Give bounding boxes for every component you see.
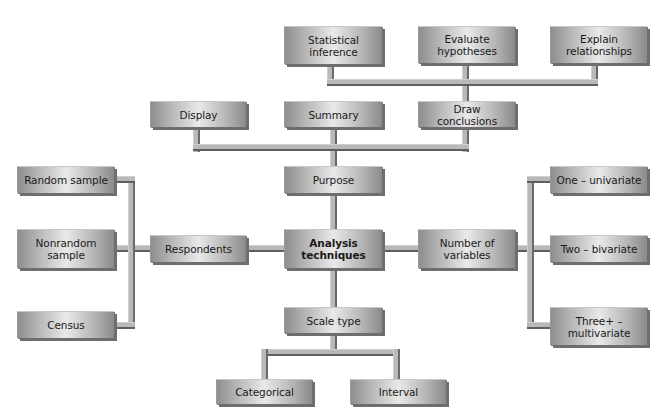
node-label: Categorical bbox=[235, 386, 294, 398]
connector bbox=[393, 349, 400, 380]
node-label: Nonrandom bbox=[36, 237, 97, 249]
node-bivariate: Two – bivariate bbox=[550, 235, 647, 262]
node-number-of-variables: Number of variables bbox=[418, 229, 515, 268]
connector bbox=[330, 192, 337, 230]
node-label: Draw conclusions bbox=[423, 103, 511, 127]
connector bbox=[527, 322, 551, 329]
node-statistical-inference: Statistical inference bbox=[284, 26, 382, 64]
node-interval: Interval bbox=[350, 379, 446, 404]
node-label: Scale type bbox=[306, 315, 360, 327]
node-label: relationships bbox=[566, 45, 632, 57]
analysis-techniques-diagram: Statistical inference Evaluate hypothese… bbox=[0, 0, 664, 409]
node-random-sample: Random sample bbox=[17, 166, 114, 193]
node-label: Respondents bbox=[165, 243, 232, 255]
node-draw-conclusions: Draw conclusions bbox=[418, 101, 515, 127]
node-label: Interval bbox=[379, 386, 418, 398]
node-analysis-techniques: Analysis techniques bbox=[284, 229, 382, 268]
node-label: Summary bbox=[308, 109, 358, 121]
connector bbox=[193, 144, 469, 151]
node-label: Display bbox=[179, 109, 217, 121]
node-label: techniques bbox=[301, 249, 365, 261]
node-label: Analysis bbox=[301, 237, 365, 249]
node-categorical: Categorical bbox=[216, 379, 312, 404]
node-census: Census bbox=[17, 311, 114, 338]
node-label: Evaluate bbox=[437, 33, 497, 45]
node-display: Display bbox=[150, 101, 246, 127]
node-multivariate: Three+ – multivariate bbox=[550, 307, 647, 345]
node-label: Three+ – bbox=[568, 315, 631, 327]
node-label: Census bbox=[47, 319, 84, 331]
node-label: sample bbox=[36, 249, 97, 261]
node-explain-relationships: Explain relationships bbox=[550, 26, 647, 63]
node-label: Statistical bbox=[308, 34, 359, 46]
node-label: Number of bbox=[440, 237, 495, 249]
node-label: inference bbox=[308, 46, 359, 58]
node-label: Explain bbox=[566, 33, 632, 45]
connector bbox=[128, 176, 135, 329]
node-purpose: Purpose bbox=[284, 166, 382, 193]
connector bbox=[261, 349, 268, 380]
connector bbox=[113, 322, 135, 329]
node-label: Purpose bbox=[313, 174, 354, 186]
node-label: One – univariate bbox=[557, 174, 642, 186]
node-nonrandom-sample: Nonrandom sample bbox=[17, 229, 114, 268]
node-scale-type: Scale type bbox=[284, 307, 382, 333]
connector bbox=[527, 176, 551, 183]
node-label: multivariate bbox=[568, 327, 631, 339]
node-respondents: Respondents bbox=[150, 235, 246, 262]
connector bbox=[330, 267, 337, 308]
node-summary: Summary bbox=[284, 101, 382, 127]
node-label: Random sample bbox=[24, 174, 108, 186]
node-label: hypotheses bbox=[437, 45, 497, 57]
connector bbox=[527, 176, 534, 329]
connector bbox=[113, 176, 135, 183]
connector bbox=[327, 79, 598, 86]
node-univariate: One – univariate bbox=[550, 166, 647, 193]
connector bbox=[261, 349, 400, 356]
connector bbox=[245, 245, 285, 252]
node-label: Two – bivariate bbox=[561, 243, 638, 255]
node-evaluate-hypotheses: Evaluate hypotheses bbox=[418, 26, 515, 63]
node-label: variables bbox=[440, 249, 495, 261]
connector bbox=[381, 245, 419, 252]
